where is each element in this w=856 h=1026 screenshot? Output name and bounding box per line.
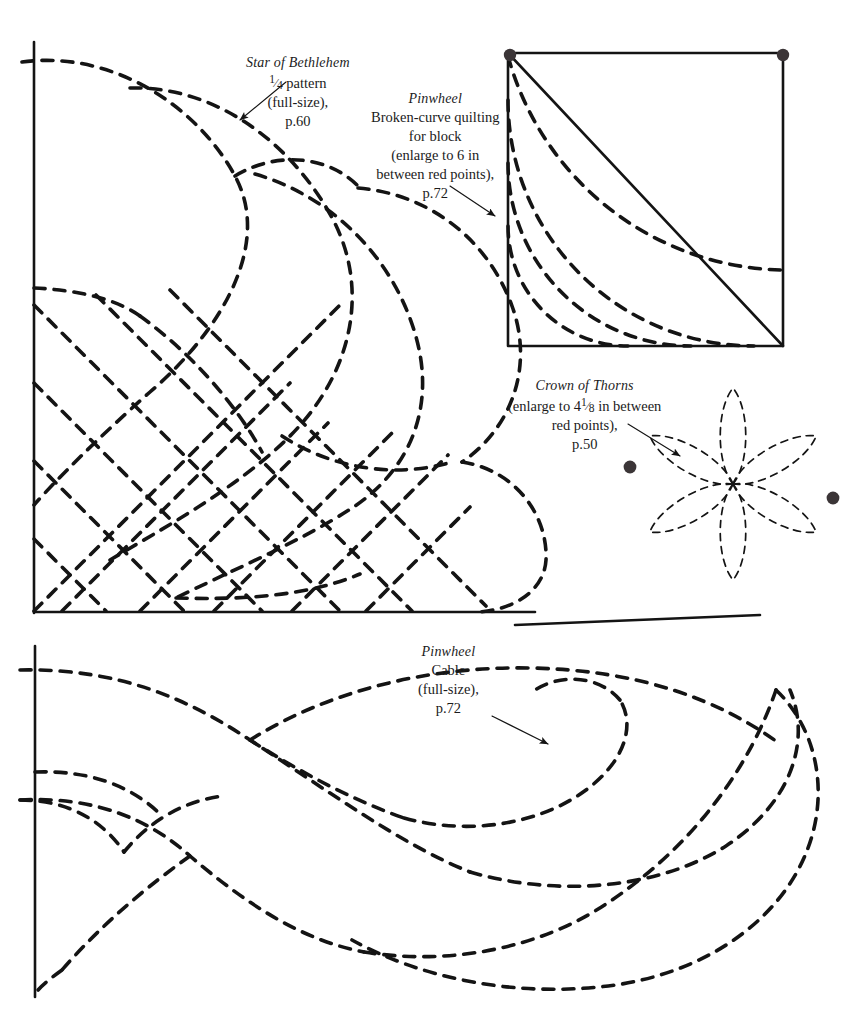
label-line-2: (full-size), bbox=[246, 93, 350, 112]
label-line-1-rest: pattern bbox=[286, 75, 326, 91]
pattern-page: Star of Bethlehem 1⁄4 pattern (full-size… bbox=[0, 0, 856, 1026]
label-title: Star of Bethlehem bbox=[246, 54, 350, 72]
fraction-denominator: 8 bbox=[589, 402, 595, 414]
label-line-2: (full-size), bbox=[418, 680, 479, 699]
label-line-4: between red points), bbox=[371, 165, 499, 184]
label-page-ref: p.60 bbox=[246, 112, 350, 131]
label-line-1-pre: (enlarge to 4 bbox=[508, 398, 581, 414]
arrow-pinwheel-cable bbox=[492, 716, 548, 744]
cable-divider-line bbox=[515, 615, 760, 625]
label-title: Pinwheel bbox=[418, 643, 479, 661]
red-point-marker bbox=[777, 49, 789, 61]
label-line-1: 1⁄4 pattern bbox=[246, 72, 350, 93]
label-line-2: red points), bbox=[508, 416, 661, 435]
label-pinwheel-block: Pinwheel Broken-curve quilting for block… bbox=[371, 90, 499, 202]
pinwheel-block-diagonal bbox=[508, 53, 783, 346]
label-page-ref: p.50 bbox=[508, 435, 661, 454]
label-page-ref: p.72 bbox=[371, 184, 499, 203]
label-line-1-post: in between bbox=[598, 398, 661, 414]
red-point-marker bbox=[827, 492, 840, 505]
fraction-denominator: 4 bbox=[277, 79, 283, 91]
label-line-1: (enlarge to 41⁄8 in between bbox=[508, 395, 661, 416]
label-pinwheel-cable: Pinwheel Cable (full-size), p.72 bbox=[418, 643, 479, 718]
red-point-marker bbox=[504, 49, 516, 61]
label-title: Crown of Thorns bbox=[508, 377, 661, 395]
label-line-1: Cable bbox=[418, 661, 479, 680]
label-crown-of-thorns: Crown of Thorns (enlarge to 41⁄8 in betw… bbox=[508, 377, 661, 454]
label-line-2: for block bbox=[371, 127, 499, 146]
label-line-3: (enlarge to 6 in bbox=[371, 146, 499, 165]
label-star-of-bethlehem: Star of Bethlehem 1⁄4 pattern (full-size… bbox=[246, 54, 350, 131]
red-point-marker bbox=[624, 461, 637, 474]
label-title: Pinwheel bbox=[371, 90, 499, 108]
figure-pinwheel-block bbox=[504, 49, 789, 346]
label-page-ref: p.72 bbox=[418, 699, 479, 718]
label-line-1: Broken-curve quilting bbox=[371, 108, 499, 127]
